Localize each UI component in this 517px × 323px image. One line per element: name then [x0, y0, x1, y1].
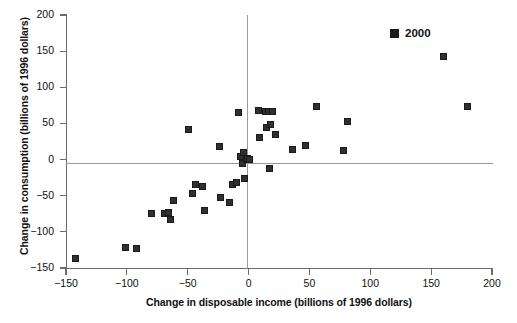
data-point [344, 118, 351, 125]
data-point [122, 244, 129, 251]
x-tick-label: 200 [467, 277, 517, 289]
data-point [289, 146, 296, 153]
y-tick-label: 150 [10, 44, 54, 56]
data-point [241, 175, 248, 182]
x-tick-mark [309, 268, 310, 275]
y-tick-mark [60, 231, 67, 232]
data-point [216, 143, 223, 150]
data-point [340, 147, 347, 154]
data-point [267, 121, 274, 128]
data-point [167, 216, 174, 223]
data-point [217, 194, 224, 201]
x-tick-mark [65, 268, 66, 275]
data-point [185, 126, 192, 133]
y-tick-label: 0 [10, 153, 54, 165]
data-point [189, 190, 196, 197]
x-tick-label: 100 [345, 277, 395, 289]
y-tick-mark [60, 14, 67, 15]
x-tick-label: −50 [163, 277, 213, 289]
data-point [170, 197, 177, 204]
y-tick-label: −100 [10, 225, 54, 237]
data-point [148, 210, 155, 217]
x-tick-mark [491, 268, 492, 275]
y-tick-mark [60, 123, 67, 124]
data-point [255, 107, 262, 114]
y-tick-mark [60, 87, 67, 88]
x-tick-label: 50 [284, 277, 334, 289]
data-point [165, 209, 172, 216]
y-tick-mark [60, 195, 67, 196]
scatter-chart: Change in consumption (billions of 1996 … [0, 0, 517, 323]
chart-legend: 2000 [390, 27, 431, 39]
data-point [464, 103, 471, 110]
data-point [246, 156, 253, 163]
data-point [256, 134, 263, 141]
data-point [440, 53, 447, 60]
data-point [192, 181, 199, 188]
data-point [235, 109, 242, 116]
data-point [302, 142, 309, 149]
legend-label-2000: 2000 [405, 27, 431, 39]
data-point [133, 245, 140, 252]
y-tick-label: 200 [10, 8, 54, 20]
data-point [199, 183, 206, 190]
data-point [313, 103, 320, 110]
data-point [72, 255, 79, 262]
x-tick-mark [126, 268, 127, 275]
x-tick-mark [248, 268, 249, 275]
x-tick-label: 0 [224, 277, 274, 289]
y-tick-mark [60, 51, 67, 52]
x-tick-mark [370, 268, 371, 275]
legend-swatch-2000 [390, 29, 399, 38]
x-tick-label: −100 [102, 277, 152, 289]
x-tick-label: 150 [406, 277, 456, 289]
x-tick-label: −150 [41, 277, 91, 289]
x-tick-mark [187, 268, 188, 275]
y-tick-label: −50 [10, 189, 54, 201]
x-axis-title: Change in disposable income (billions of… [66, 296, 492, 308]
x-axis-line [66, 268, 493, 269]
y-tick-label: 100 [10, 80, 54, 92]
data-point [272, 131, 279, 138]
data-point [266, 165, 273, 172]
y-tick-label: 50 [10, 116, 54, 128]
x-tick-mark [431, 268, 432, 275]
zero-vertical-reference-line [247, 15, 248, 269]
y-tick-label: −150 [10, 261, 54, 273]
data-point [269, 108, 276, 115]
data-point [233, 179, 240, 186]
y-tick-mark [60, 159, 67, 160]
zero-horizontal-reference-line [66, 163, 493, 164]
data-point [201, 207, 208, 214]
data-point [226, 199, 233, 206]
